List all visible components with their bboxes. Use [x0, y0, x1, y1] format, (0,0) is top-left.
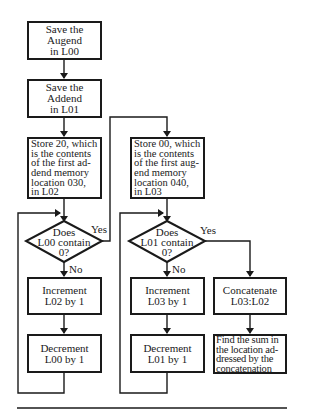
decrement-l01-box: Decrement L01 by 1 [130, 334, 205, 373]
concatenate-box: Concatenate L03:L02 [213, 277, 287, 315]
decision-l00-no-label: No [69, 264, 82, 275]
increment-l03-box: Increment L03 by 1 [130, 277, 205, 315]
decision-l01-text: Does L01 contain 0? [137, 227, 197, 257]
save-addend-box: Save the Addend in L01 [27, 79, 102, 118]
decrement-l00-box: Decrement L00 by 1 [27, 334, 102, 373]
decision-l01-yes-label: Yes [200, 225, 216, 236]
decision-l00-yes-label: Yes [91, 224, 107, 235]
decision-l01-no-label: No [172, 264, 185, 275]
increment-l02-box: Increment L02 by 1 [27, 277, 102, 315]
save-augend-box: Save the Augend in L00 [27, 21, 102, 60]
store-20-box: Store 20, which is the contents of the f… [27, 137, 102, 199]
store-00-box: Store 00, which is the contents of the f… [130, 137, 205, 199]
decision-l00-text: Does L00 contain 0? [34, 227, 94, 257]
find-sum-box: Find the sum in the location ad- dressed… [213, 334, 287, 374]
